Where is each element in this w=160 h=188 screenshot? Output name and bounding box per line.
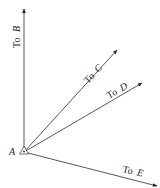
ray-to-c: To C (24, 50, 117, 152)
ray-to-b: To B (11, 9, 24, 152)
ray-b-prefix: To (11, 38, 22, 48)
ray-c-prefix: To (81, 70, 96, 85)
svg-text:To C: To C (81, 62, 104, 86)
ray-to-d: To D (24, 80, 142, 152)
ray-e-target: E (135, 166, 144, 178)
origin-label: A (8, 146, 16, 157)
svg-text:To B: To B (11, 26, 22, 48)
direction-diagram: To B To C To D To E A (0, 0, 160, 188)
origin-point-a: A (8, 146, 29, 157)
ray-c-target: C (92, 62, 105, 75)
svg-text:To E: To E (122, 163, 145, 178)
ray-e-prefix: To (122, 163, 135, 176)
ray-b-target: B (11, 26, 22, 32)
ray-d-prefix: To (105, 86, 120, 101)
ray-to-e: To E (24, 152, 157, 186)
